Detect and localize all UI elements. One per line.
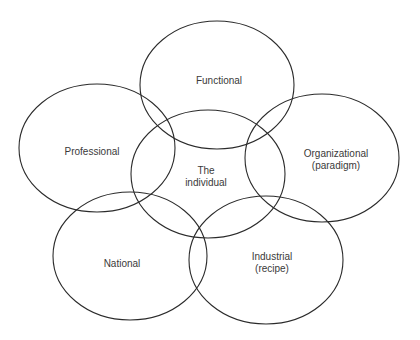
industrial-label-line2: (recipe) [255, 263, 289, 274]
industrial-label-line1: Industrial [252, 251, 293, 262]
national-label: National [104, 258, 141, 269]
functional-label: Functional [196, 75, 242, 86]
organizational-label-line2: (paradigm) [312, 160, 360, 171]
professional-label: Professional [64, 146, 119, 157]
venn-diagram: Functional Professional Organizational (… [0, 0, 420, 340]
national-ellipse [53, 192, 207, 320]
individual-label-line1: The [197, 165, 215, 176]
organizational-label-line1: Organizational [304, 148, 368, 159]
individual-label-line2: individual [185, 177, 227, 188]
